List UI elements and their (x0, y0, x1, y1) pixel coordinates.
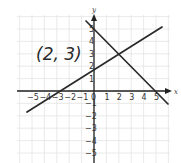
x-tick-label: −5 (27, 93, 39, 102)
y-tick-label: −2 (85, 112, 97, 121)
y-axis-arrow-icon (91, 14, 97, 21)
y-tick-label: 3 (89, 50, 94, 59)
x-tick-label: 1 (104, 93, 109, 102)
y-tick-label: 4 (89, 37, 94, 46)
coordinate-graph: x y −5−4−3−2−1012345 54321−1−2−3−4−5 (2,… (0, 0, 181, 163)
y-tick-label: −3 (85, 124, 97, 133)
x-tick-label: 3 (129, 93, 134, 102)
y-axis-label: y (91, 6, 97, 14)
x-axis-label: x (174, 88, 178, 96)
axes: x y (17, 6, 178, 163)
y-tick-label: 1 (89, 75, 94, 84)
y-tick-label: −4 (85, 137, 97, 146)
y-tick-label: −5 (85, 149, 97, 158)
x-tick-label: 4 (142, 93, 147, 102)
x-tick-label: 2 (117, 93, 122, 102)
y-tick-label: −1 (85, 99, 97, 108)
intersection-annotation: (2, 3) (36, 44, 82, 64)
x-tick-label: −2 (64, 93, 76, 102)
